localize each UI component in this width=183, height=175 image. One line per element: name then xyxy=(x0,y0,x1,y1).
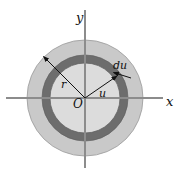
radius-r-label: r xyxy=(61,78,67,91)
origin-label: O xyxy=(73,97,83,111)
math-figure-concentric-circles: y x O r u du xyxy=(0,0,183,175)
figure-canvas: y x O r u du xyxy=(0,0,183,175)
radius-u-label: u xyxy=(99,87,106,100)
x-axis-label: x xyxy=(166,94,174,109)
thickness-du-label: du xyxy=(113,59,127,72)
y-axis-label: y xyxy=(75,10,84,25)
